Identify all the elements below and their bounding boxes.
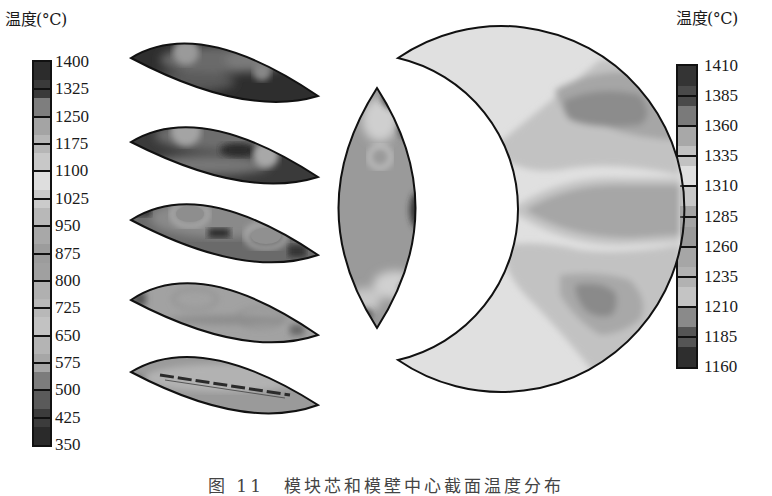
lens-section-3 xyxy=(125,175,325,290)
center-lens-section xyxy=(320,80,440,340)
lens-section-4 xyxy=(125,254,325,369)
figure-caption: 图 11 模块芯和模壁中心截面温度分布 xyxy=(0,476,772,496)
lens-section-1 xyxy=(125,20,325,130)
lens-section-2 xyxy=(125,100,325,210)
lens-section-5 xyxy=(125,330,325,440)
crescent-section xyxy=(390,20,684,400)
